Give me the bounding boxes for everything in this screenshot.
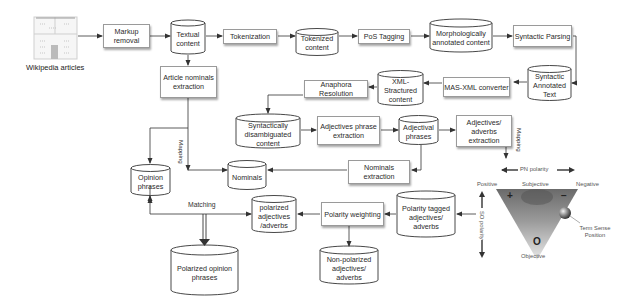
documents-icon (34, 17, 77, 59)
morphologically-annotated-store[interactable]: Morphologically annotated content (430, 24, 492, 52)
markup-removal-box[interactable]: Markup removal (103, 24, 150, 48)
syntactically-disambiguated-store[interactable]: Syntactically disambiguated content (236, 120, 300, 148)
matching-label: Matching (188, 201, 216, 208)
syntactic-annotated-text-store[interactable]: Syntactic Annotated Text (528, 71, 571, 99)
adjectives-adverbs-extraction-box[interactable]: Adjectives/ adverbs extraction (456, 115, 512, 147)
minus-sign: − (561, 190, 567, 201)
positive-label: Positive (477, 181, 497, 187)
source-label: Wikipedia articles (26, 63, 84, 72)
objective-label: Objective (521, 253, 545, 259)
zero-sign: O (533, 236, 541, 247)
polarized-adjectives-adverbs-store[interactable]: polarized adjectives /adverbs (252, 202, 296, 230)
non-polarized-store[interactable]: Non-polarized adjectives/ adverbs (320, 254, 378, 282)
nominals-store[interactable]: Nominals (228, 167, 266, 187)
mas-xml-converter-box[interactable]: MAS-XML converter (443, 77, 510, 97)
anaphora-resolution-box[interactable]: Anaphora Resolution (304, 80, 368, 98)
pn-polarity-label: PN polarity (520, 166, 548, 172)
term-sense-position-label: Term Sense Position (571, 225, 619, 239)
textual-content-store[interactable]: Textual content (171, 26, 205, 52)
syntactic-parsing-box[interactable]: Syntactic Parsing (513, 25, 572, 47)
polarized-opinion-phrases-store[interactable]: Polarized opinion phrases (174, 258, 235, 288)
plus-sign: + (507, 190, 513, 201)
negative-label: Negative (576, 181, 599, 187)
subjective-label: Subjective (522, 181, 549, 187)
xml-structured-content-store[interactable]: XML-Stractured content (378, 76, 423, 104)
mapping-label-right: Mapping (516, 128, 523, 152)
tokenization-box[interactable]: Tokenization (223, 29, 277, 44)
nominals-extraction-box[interactable]: Nominals extraction (348, 160, 410, 184)
pos-tagging-box[interactable]: PoS Tagging (358, 29, 410, 44)
article-nominals-extraction-box[interactable]: Article nominals extraction (160, 66, 217, 98)
polarity-weighting-box[interactable]: Polarity weighting (321, 202, 384, 226)
so-polarity-label: SO polarity (479, 211, 485, 240)
adjectives-phrase-extraction-box[interactable]: Adjectives phrase extraction (317, 116, 380, 145)
polarity-tagged-store[interactable]: Polarity tagged adjectives/ adverbs (397, 199, 455, 235)
opinion-phrases-store[interactable]: Opinion phrases (131, 171, 170, 193)
mapping-label-left: Mapping (178, 140, 185, 164)
tokenized-content-store[interactable]: Tokenized content (296, 34, 338, 52)
adjectival-phrases-store[interactable]: Adjectival phrases (399, 122, 438, 142)
